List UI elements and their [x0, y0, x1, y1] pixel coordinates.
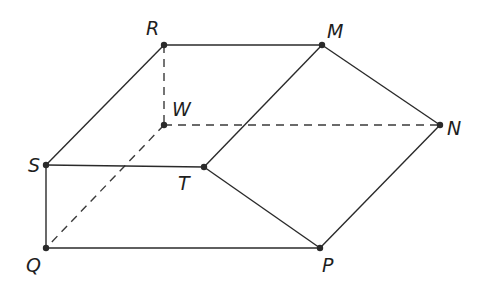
prism-diagram: R M W N S T Q P	[0, 0, 486, 298]
vertex-P	[317, 245, 323, 251]
vertex-T	[201, 164, 207, 170]
label-P: P	[322, 254, 334, 276]
label-W: W	[172, 98, 192, 120]
label-S: S	[28, 154, 40, 176]
edge-TP	[204, 167, 320, 248]
label-N: N	[447, 117, 461, 139]
label-M: M	[327, 20, 343, 42]
vertex-Q	[43, 245, 49, 251]
vertex-R	[161, 42, 167, 48]
label-R: R	[146, 17, 159, 39]
label-Q: Q	[26, 254, 41, 276]
vertex-S	[43, 162, 49, 168]
edge-ST	[46, 165, 204, 167]
vertex-W	[161, 122, 167, 128]
edge-MN	[322, 45, 440, 125]
edge-NP	[320, 125, 440, 248]
vertex-N	[437, 122, 443, 128]
label-T: T	[178, 172, 191, 194]
hidden-edge-WQ	[46, 125, 164, 248]
edge-MT	[204, 45, 322, 167]
vertex-M	[319, 42, 325, 48]
edge-RS	[46, 45, 164, 165]
